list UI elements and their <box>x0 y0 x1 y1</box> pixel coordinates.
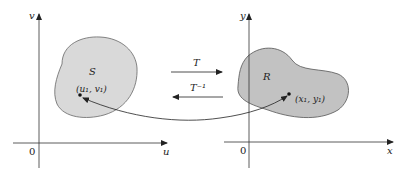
y-axis-label: y <box>239 10 246 21</box>
origin-label-left: 0 <box>29 146 35 157</box>
region-s <box>55 37 137 118</box>
origin-label-right: 0 <box>240 145 246 156</box>
x-axis-label: x <box>387 145 393 156</box>
point-xy-label: (x₁, y₁) <box>295 94 326 104</box>
region-r-label: R <box>262 71 271 82</box>
v-axis-label: v <box>29 10 35 21</box>
forward-map-label: T <box>193 57 201 68</box>
region-s-label: S <box>89 66 96 77</box>
point-uv <box>78 93 82 97</box>
xy-plane: y x 0 R (x₁, y₁) <box>224 10 393 168</box>
uv-plane: v u 0 S (u₁, v₁) <box>13 10 169 168</box>
point-xy <box>287 92 291 96</box>
inverse-map-label: T⁻¹ <box>190 82 206 93</box>
point-uv-label: (u₁, v₁) <box>76 84 107 94</box>
transformation-diagram: v u 0 S (u₁, v₁) T T⁻¹ y x 0 R (x₁, y₁) <box>0 0 406 179</box>
mapping-arrows: T T⁻¹ <box>171 57 223 97</box>
u-axis-label: u <box>163 146 169 157</box>
region-r <box>238 48 349 117</box>
